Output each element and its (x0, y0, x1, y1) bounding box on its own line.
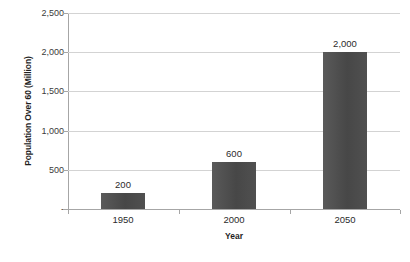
y-axis-tick-labels: 2,500 2,000 1,500 1,000 500 - (22, 0, 64, 262)
gridline (68, 13, 400, 14)
bar-1950[interactable] (101, 193, 145, 209)
y-tick-label: 1,500 (24, 86, 64, 96)
y-tick-label: 2,000 (24, 47, 64, 57)
x-tick-label-1950: 1950 (112, 214, 133, 225)
bar-chart: Population Over 60 (Million) 2,500 2,000… (0, 0, 410, 262)
y-tick-label: 2,500 (24, 8, 64, 18)
bar-value-label: 600 (226, 148, 242, 159)
axis-baseline (68, 209, 400, 210)
bar-value-label: 2,000 (333, 38, 357, 49)
x-tick-label-2050: 2050 (334, 214, 355, 225)
x-axis-tick-labels: 1950 2000 2050 (68, 214, 400, 230)
category-tickmark (400, 210, 401, 214)
y-tick-label: 1,000 (24, 126, 64, 136)
x-tick-label-2000: 2000 (223, 214, 244, 225)
x-axis-title: Year (68, 231, 400, 241)
plot-area: 200 600 2,000 (68, 13, 400, 209)
bar-2050[interactable] (323, 52, 367, 209)
y-tick-label: - (24, 204, 64, 214)
bar-2000[interactable] (212, 162, 256, 209)
y-tick-label: 500 (24, 165, 64, 175)
bottom-caption (68, 252, 400, 262)
bar-value-label: 200 (115, 179, 131, 190)
